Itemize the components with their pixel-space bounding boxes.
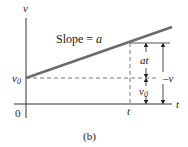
- y-axis-label: v: [23, 2, 28, 14]
- at-label: at: [140, 54, 150, 66]
- velocity-time-graph: v t 0 v0 Slope = a t at v0 –v (b): [0, 0, 188, 147]
- slope-label: Slope = a: [56, 32, 102, 46]
- t-label: t: [127, 105, 131, 117]
- v0-label: v0: [12, 72, 21, 86]
- x-axis-label: t: [176, 98, 180, 110]
- origin-label: 0: [15, 107, 21, 119]
- v-dim-label: –v: [162, 72, 174, 84]
- figure-caption: (b): [83, 130, 96, 143]
- v0-dim-label: v0: [139, 85, 148, 99]
